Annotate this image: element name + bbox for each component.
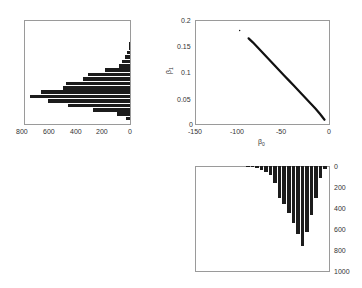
scatter-xtick: -50	[276, 128, 286, 135]
scatter-ytick: 0.15	[177, 43, 191, 50]
scatter-ytick: 0	[189, 121, 193, 128]
scatter-xlabel-sub: 0	[262, 141, 265, 147]
bottom-histogram-bar	[246, 166, 250, 167]
bottom-histogram-bar	[260, 166, 264, 170]
bottom-histogram-bar	[273, 166, 277, 183]
bottom-histogram-bar	[314, 166, 318, 198]
bottom-ytick: 200	[334, 184, 346, 191]
bottom-histogram-bar	[292, 166, 296, 223]
scatter-ytick: 0.2	[181, 17, 191, 24]
bottom-ytick: 800	[334, 247, 346, 254]
scatter-outlier-point	[239, 30, 240, 31]
scatter-xlabel: β0	[258, 138, 265, 147]
bottom-ytick: 1000	[334, 268, 350, 275]
scatter-ytick: 0.05	[177, 96, 191, 103]
bottom-histogram-bar	[305, 166, 309, 232]
bottom-histogram-bar	[255, 166, 259, 168]
bottom-ytick: 600	[334, 226, 346, 233]
bottom-histogram-bar	[287, 166, 291, 213]
bottom-histogram-bar	[269, 166, 273, 175]
scatter-ylabel: β1	[165, 67, 174, 74]
bottom-histogram-bar	[319, 166, 323, 178]
bottom-ytick: 0	[334, 163, 338, 170]
bottom-histogram-bar	[296, 166, 300, 234]
scatter-xtick: -150	[188, 128, 202, 135]
scatter-point-tail	[249, 38, 258, 47]
scatter-ytick: 0.1	[181, 69, 191, 76]
scatter-ylabel-sub: 1	[168, 67, 174, 70]
bottom-histogram-bar	[282, 166, 286, 204]
bottom-histogram-bar	[310, 166, 314, 215]
bottom-histogram-bar	[264, 166, 268, 172]
bottom-histogram-bar	[278, 166, 282, 198]
bottom-histogram-bar	[251, 166, 255, 167]
scatter-ylabel-text: β	[165, 70, 172, 74]
bottom-ytick: 400	[334, 205, 346, 212]
scatter-xtick: -100	[230, 128, 244, 135]
bottom-histogram-bar	[323, 166, 327, 169]
scatter-point-band	[249, 38, 325, 119]
scatter-xtick: 0	[327, 128, 331, 135]
bottom-histogram-bar	[301, 166, 305, 246]
